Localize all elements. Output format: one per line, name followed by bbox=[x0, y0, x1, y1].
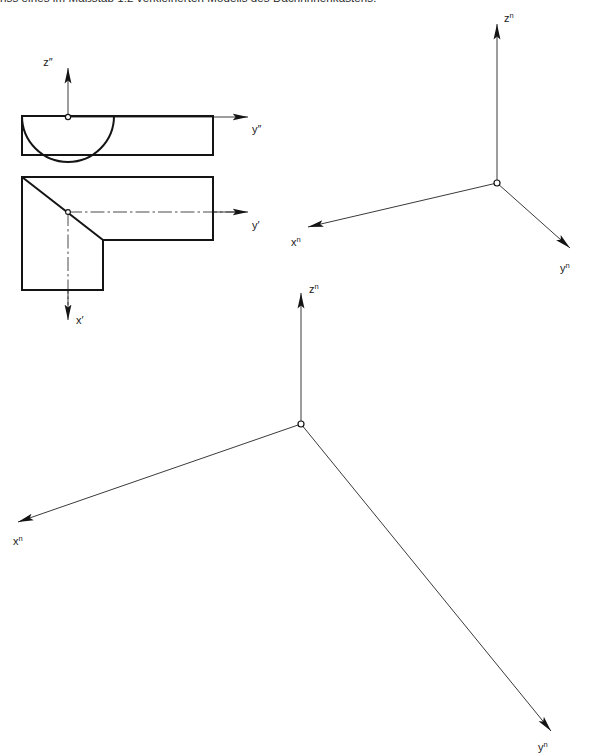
lower-triad-x-axis bbox=[18, 424, 301, 522]
lower-triad-y-axis-label: yn bbox=[538, 740, 548, 753]
plan-chamfer-diagonal bbox=[22, 177, 103, 240]
upper-triad-y-axis bbox=[497, 183, 570, 248]
lower-axis-triad-group: zn xn yn bbox=[13, 282, 551, 753]
elevation-body-outline bbox=[22, 116, 213, 155]
plan-body-outline bbox=[22, 177, 213, 290]
elevation-z-axis-label: z″ bbox=[43, 56, 53, 68]
upper-axis-triad-group: zn xn yn bbox=[291, 11, 570, 274]
plan-view-group: y′ x′ bbox=[22, 177, 260, 326]
upper-triad-x-axis-label: xn bbox=[291, 235, 301, 248]
elevation-y-axis-label: y″ bbox=[252, 123, 262, 135]
upper-triad-x-axis bbox=[308, 183, 497, 227]
drawing-canvas: z″ y″ bbox=[0, 0, 604, 755]
elevation-origin-marker bbox=[65, 114, 70, 119]
lower-triad-x-axis-label: xn bbox=[13, 534, 23, 547]
elevation-view-group: z″ y″ bbox=[22, 56, 262, 162]
lower-triad-z-axis-label: zn bbox=[309, 282, 319, 295]
lower-triad-y-axis bbox=[301, 424, 551, 731]
plan-x-axis-label: x′ bbox=[76, 314, 84, 326]
upper-triad-y-axis-label: yn bbox=[560, 261, 570, 274]
technical-drawing-svg: z″ y″ bbox=[0, 0, 604, 755]
upper-triad-origin-marker bbox=[494, 180, 500, 186]
drawing-page: riss eines im Maßstab 1:2 verkleinerten … bbox=[0, 0, 604, 755]
plan-origin-marker bbox=[66, 210, 71, 215]
upper-triad-z-axis-label: zn bbox=[504, 11, 514, 24]
plan-y-axis-label: y′ bbox=[252, 219, 260, 231]
lower-triad-origin-marker bbox=[298, 421, 304, 427]
